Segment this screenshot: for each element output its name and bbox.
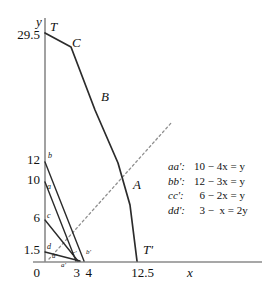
legend-key-bb: bb': [168, 175, 194, 187]
constraint-label-c-prime: c' [72, 250, 77, 257]
constraint-label-b-prime: b' [86, 249, 91, 256]
constraint-label-b: b [48, 152, 52, 160]
y-tick-29-5: 29.5 [6, 28, 40, 41]
x-tick-12-5: 12.5 [124, 266, 154, 279]
constraint-label-a-prime: a' [61, 262, 66, 269]
y-tick-6: 6 [6, 211, 40, 224]
legend-equation-cc: 6 − 2x = y [194, 189, 245, 201]
curve-label-A: A [133, 178, 141, 191]
legend-key-aa: aa': [168, 160, 194, 172]
x-tick-4: 4 [78, 266, 92, 279]
legend-key-dd: dd': [168, 204, 194, 216]
curve-label-T-prime: T' [143, 243, 153, 256]
legend-equation-aa: 10 − 4x = y [194, 160, 245, 172]
origin-tick-0: 0 [20, 266, 40, 279]
legend-row: bb': 12 − 3x = y [168, 175, 248, 190]
constraint-label-d-prime: d' [52, 253, 57, 260]
curve-label-T: T [50, 20, 57, 33]
main-curve-tcbat [45, 33, 137, 261]
y-tick-10: 10 [6, 173, 40, 186]
curve-label-B: B [101, 90, 109, 103]
x-axis-label: x [187, 266, 193, 279]
constraint-label-a: a [47, 183, 51, 191]
constraint-label-d: d [47, 243, 51, 251]
legend-row: aa': 10 − 4x = y [168, 160, 248, 175]
legend-key-cc: cc': [168, 189, 194, 201]
y-tick-1-5: 1.5 [6, 243, 40, 256]
plot-canvas [0, 0, 276, 291]
legend-equation-dd: 3 − x = 2y [194, 204, 248, 216]
constraint-label-c: c [47, 212, 51, 220]
legend-equation-bb: 12 − 3x = y [194, 175, 245, 187]
curve-label-C: C [72, 36, 81, 49]
y-tick-12: 12 [6, 153, 40, 166]
figure-root: y x 29.5 12 10 6 1.5 0 3 4 12.5 T C B A … [0, 0, 276, 291]
equation-legend: aa': 10 − 4x = y bb': 12 − 3x = y cc': 6… [168, 160, 248, 218]
legend-row: dd': 3 − x = 2y [168, 204, 248, 219]
legend-row: cc': 6 − 2x = y [168, 189, 248, 204]
